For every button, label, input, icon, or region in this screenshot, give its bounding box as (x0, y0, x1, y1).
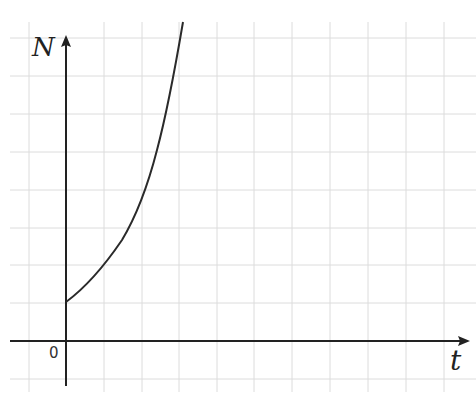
exponential-growth-graph: N t 0 (0, 0, 476, 399)
y-axis (61, 35, 71, 386)
origin-label: 0 (49, 344, 59, 362)
grid (10, 22, 476, 392)
growth-curve (66, 22, 183, 302)
x-axis (10, 336, 470, 346)
y-axis-label: N (31, 32, 56, 62)
x-axis-label: t (450, 344, 462, 377)
